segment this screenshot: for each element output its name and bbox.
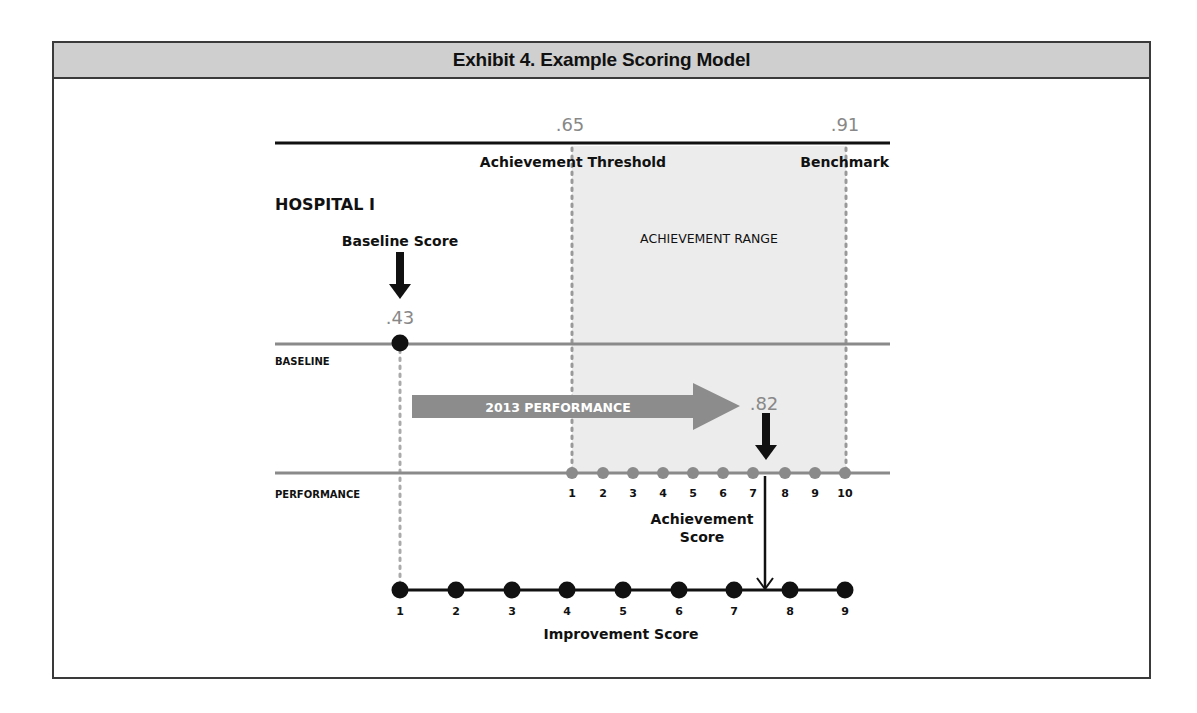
hospital-label: HOSPITAL I xyxy=(275,195,375,214)
benchmark-value: .91 xyxy=(831,114,860,135)
scoring-model-diagram: .65 .91 Achievement Threshold Benchmark … xyxy=(0,0,1197,713)
baseline-score-label: Baseline Score xyxy=(342,233,458,249)
performance-arrow-label: 2013 PERFORMANCE xyxy=(485,400,631,415)
svg-text:1: 1 xyxy=(568,487,576,500)
achievement-range-area xyxy=(572,146,846,473)
svg-text:2: 2 xyxy=(599,487,607,500)
svg-text:3: 3 xyxy=(629,487,637,500)
svg-text:4: 4 xyxy=(659,487,667,500)
baseline-row-label: BASELINE xyxy=(275,356,330,367)
svg-text:10: 10 xyxy=(837,487,853,500)
achievement-tick-labels: 1 2 3 4 5 6 7 8 9 10 xyxy=(568,487,853,500)
threshold-value: .65 xyxy=(556,114,585,135)
improvement-dots xyxy=(392,582,854,599)
benchmark-label: Benchmark xyxy=(800,154,889,170)
svg-text:3: 3 xyxy=(508,605,516,618)
baseline-down-arrow-icon xyxy=(389,252,411,299)
svg-text:2: 2 xyxy=(452,605,460,618)
improvement-tick-labels: 1 2 3 4 5 6 7 8 9 xyxy=(396,605,849,618)
svg-text:7: 7 xyxy=(749,487,757,500)
threshold-label: Achievement Threshold xyxy=(480,154,666,170)
baseline-dot xyxy=(392,335,409,352)
svg-text:9: 9 xyxy=(811,487,819,500)
svg-text:4: 4 xyxy=(563,605,571,618)
svg-text:8: 8 xyxy=(786,605,794,618)
svg-text:5: 5 xyxy=(619,605,627,618)
performance-row-label: PERFORMANCE xyxy=(275,489,360,500)
performance-value: .82 xyxy=(750,393,779,414)
achievement-score-label: Achievement xyxy=(651,511,754,527)
improvement-score-label: Improvement Score xyxy=(544,626,699,642)
svg-text:6: 6 xyxy=(675,605,683,618)
svg-text:9: 9 xyxy=(841,605,849,618)
achievement-range-label: ACHIEVEMENT RANGE xyxy=(640,231,778,246)
svg-text:8: 8 xyxy=(781,487,789,500)
baseline-value: .43 xyxy=(386,307,415,328)
achievement-score-arrow-icon xyxy=(757,476,773,589)
svg-text:5: 5 xyxy=(689,487,697,500)
svg-text:7: 7 xyxy=(730,605,738,618)
achievement-score-label-2: Score xyxy=(680,529,724,545)
svg-text:6: 6 xyxy=(719,487,727,500)
svg-text:1: 1 xyxy=(396,605,404,618)
